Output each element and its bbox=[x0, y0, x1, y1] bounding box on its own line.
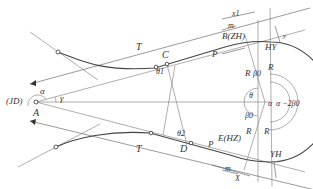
label-point-e: E(HZ) bbox=[217, 133, 241, 143]
node-d-left bbox=[149, 131, 153, 135]
label-theta: θ bbox=[249, 91, 253, 100]
label-theta1: θ1 bbox=[156, 67, 164, 76]
label-r-upper-right: R bbox=[267, 62, 274, 72]
lower-transition-curve bbox=[56, 132, 230, 155]
label-point-b: B(ZH) bbox=[222, 31, 245, 41]
label-alpha-left: α bbox=[40, 86, 45, 96]
label-vertex-code: (JD) bbox=[6, 96, 23, 106]
node-upper-start bbox=[56, 50, 60, 54]
arrow-icon bbox=[30, 80, 36, 86]
label-r-lower-left: R bbox=[245, 126, 252, 136]
label-m-lower: m bbox=[225, 164, 231, 173]
node-vertex bbox=[34, 100, 38, 104]
label-beta0-lower: β0 bbox=[244, 111, 253, 120]
label-theta2: θ2 bbox=[177, 129, 185, 138]
label-beta0-upper: β0 bbox=[252, 69, 261, 78]
label-m-upper: m bbox=[228, 21, 234, 30]
x-dimension-lower bbox=[212, 165, 250, 176]
radius-line-2 bbox=[270, 8, 272, 186]
label-tangent-lower: T bbox=[136, 143, 143, 154]
label-y-upper: y bbox=[282, 32, 287, 40]
node-lower-start bbox=[54, 145, 58, 149]
label-point-c: C bbox=[162, 49, 169, 60]
label-tangent-upper: T bbox=[136, 41, 143, 52]
label-alpha-minus: α −2β0 bbox=[276, 99, 300, 108]
label-alpha-center: α bbox=[268, 99, 273, 108]
label-vertex: A bbox=[32, 107, 40, 118]
node-d bbox=[189, 141, 193, 145]
label-r-lower-right: R bbox=[263, 126, 270, 136]
incoming-line-upper bbox=[30, 32, 98, 80]
label-x-lower: X bbox=[234, 174, 241, 183]
label-p-lower: P bbox=[207, 139, 214, 149]
label-gamma: γ bbox=[60, 93, 64, 103]
label-r-upper-left: R bbox=[244, 68, 251, 78]
label-x-upper: x1 bbox=[231, 9, 240, 18]
label-hy: HY bbox=[264, 42, 277, 52]
label-point-d: D bbox=[179, 143, 188, 154]
curve-geometry-diagram: (JD) A α γ T T C θ1 D θ2 P P B(ZH) E(HZ)… bbox=[0, 0, 313, 189]
y-dimension-upper bbox=[275, 26, 280, 42]
label-p-upper: P bbox=[211, 49, 218, 59]
arrow-icon bbox=[30, 119, 36, 125]
node-c bbox=[165, 62, 169, 66]
d-radial-line bbox=[163, 66, 175, 135]
gamma-arc bbox=[55, 97, 56, 102]
label-yh: YH bbox=[270, 149, 282, 159]
